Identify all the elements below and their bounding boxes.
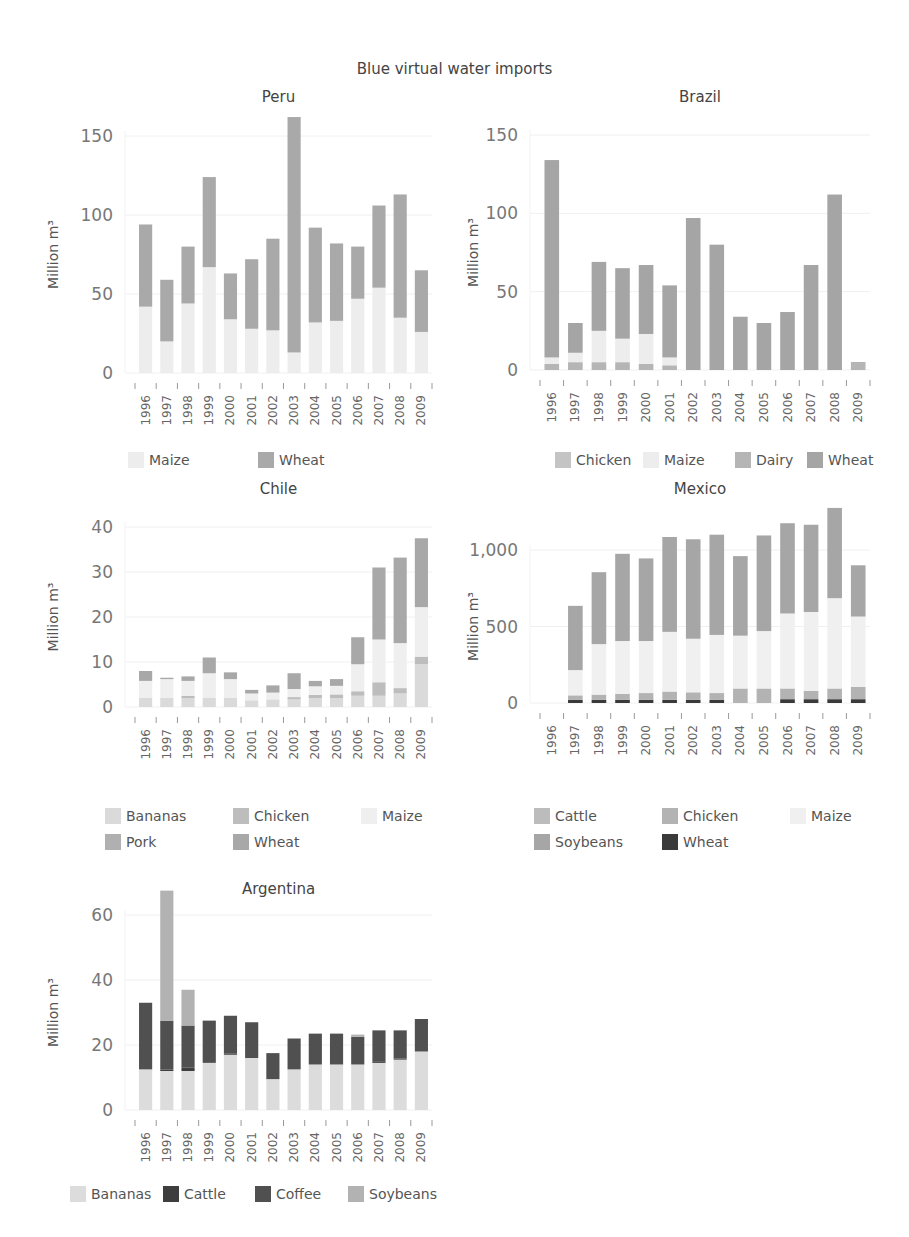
y-tick-label: 150 (486, 125, 518, 145)
legend-item-pork: Pork (105, 834, 156, 850)
bar-segment-wheat (592, 262, 607, 331)
x-tick-label: 2006 (781, 392, 795, 423)
bar-segment-maize (372, 640, 385, 683)
x-tick-label: 2009 (414, 729, 428, 760)
bar-segment-bananas (203, 698, 216, 707)
x-tick-label: 2003 (287, 1132, 301, 1163)
x-tick-label: 2001 (245, 1132, 259, 1163)
x-tick-label: 1997 (568, 725, 582, 756)
bar-segment-bananas (415, 1052, 428, 1111)
bar-segment-maize (351, 664, 364, 691)
bar-segment-bananas (245, 1058, 258, 1110)
bar-segment-maize (288, 352, 301, 373)
y-tick-label: 40 (91, 970, 113, 990)
bar-segment-bananas (203, 1063, 216, 1110)
bar-segment-maize (827, 598, 842, 688)
bar-segment-wheat (288, 117, 301, 352)
bar-segment-wheat (827, 699, 842, 703)
bar-segment-soybeans (351, 1035, 364, 1037)
y-axis-label: Million m³ (45, 978, 61, 1047)
legend-item-soybeans: Soybeans (348, 1186, 437, 1202)
bar-segment-chicken (827, 688, 842, 699)
bar-segment-coffee (330, 1034, 343, 1065)
bar-segment-coffee (139, 1003, 152, 1070)
bar-segment-soybeans (804, 525, 819, 612)
bar-segment-chicken (662, 692, 677, 700)
x-tick-label: 2001 (245, 729, 259, 760)
x-tick-label: 2001 (663, 725, 677, 756)
bar-segment-soybeans (568, 606, 583, 670)
bar-segment-soybeans (851, 565, 866, 616)
bar-segment-coffee (266, 1053, 279, 1079)
bar-segment-wheat (804, 699, 819, 703)
bar-segment-bananas (160, 1071, 173, 1110)
bar-segment-bananas (181, 1071, 194, 1110)
x-tick-label: 1999 (616, 392, 630, 423)
bar-segment-coffee (203, 1021, 216, 1063)
x-tick-label: 2003 (287, 395, 301, 426)
x-tick-label: 1996 (139, 1132, 153, 1163)
legend-label: Chicken (683, 808, 738, 824)
bar-segment-coffee (351, 1037, 364, 1065)
y-tick-label: 10 (91, 652, 113, 672)
x-tick-label: 2008 (393, 395, 407, 426)
bar-segment-chicken (288, 697, 301, 699)
y-tick-label: 0 (102, 697, 113, 717)
bar-segment-bananas (309, 1065, 322, 1111)
bar-segment-wheat (203, 177, 216, 267)
x-tick-label: 1998 (181, 395, 195, 426)
y-tick-label: 0 (507, 360, 518, 380)
legend-label: Chicken (576, 452, 631, 468)
legend-swatch (790, 808, 806, 824)
bar-segment-wheat (309, 228, 322, 323)
chart-argentina: Argentina0204060Million m³19961997199819… (40, 870, 440, 1190)
x-tick-label: 1997 (568, 392, 582, 423)
bar-segment-wheat (639, 265, 654, 334)
x-tick-label: 1999 (202, 1132, 216, 1163)
x-tick-label: 2007 (804, 725, 818, 756)
legend-swatch (807, 452, 823, 468)
panel-title: Mexico (674, 480, 726, 498)
bar-segment-maize (351, 299, 364, 373)
x-tick-label: 2000 (639, 725, 653, 756)
x-tick-label: 1999 (202, 395, 216, 426)
legend-item-maize: Maize (128, 452, 190, 468)
bar-segment-chicken (592, 695, 607, 700)
bar-segment-coffee (415, 1019, 428, 1052)
legend-swatch (555, 452, 571, 468)
bar-segment-chicken (309, 695, 322, 698)
bar-segment-maize (415, 332, 428, 373)
legend-item-wheat: Wheat (258, 452, 324, 468)
legend-swatch (534, 808, 550, 824)
legend-item-coffee: Coffee (255, 1186, 321, 1202)
bar-segment-wheat (139, 224, 152, 306)
chart-peru: Peru050100150Million m³19961997199819992… (40, 78, 440, 468)
bar-segment-wheat (780, 699, 795, 703)
x-tick-label: 2004 (733, 392, 747, 423)
legend-label: Maize (382, 808, 423, 824)
y-tick-label: 50 (496, 282, 518, 302)
x-tick-label: 1998 (181, 729, 195, 760)
bar-segment-maize (160, 679, 173, 698)
x-tick-label: 2002 (686, 725, 700, 756)
bar-segment-wheat (686, 218, 701, 370)
y-tick-label: 1,000 (469, 540, 518, 560)
legend-swatch (662, 808, 678, 824)
bar-segment-maize (544, 357, 559, 363)
legend-label: Coffee (276, 1186, 321, 1202)
bar-segment-wheat (851, 362, 866, 364)
y-axis-label: Million m³ (465, 592, 481, 661)
x-tick-label: 2004 (733, 725, 747, 756)
bar-segment-bananas (288, 699, 301, 707)
bar-segment-wheat (181, 247, 194, 304)
x-tick-label: 1996 (545, 725, 559, 756)
bar-segment-dairy (615, 362, 630, 370)
bar-segment-wheat (709, 245, 724, 370)
bar-segment-dairy (592, 362, 607, 370)
bar-segment-bananas (351, 1065, 364, 1111)
bar-segment-wheat (733, 317, 748, 370)
bar-segment-bananas (330, 698, 343, 707)
legend-item-cattle: Cattle (163, 1186, 226, 1202)
x-tick-label: 2008 (393, 729, 407, 760)
figure-title: Blue virtual water imports (0, 60, 909, 78)
